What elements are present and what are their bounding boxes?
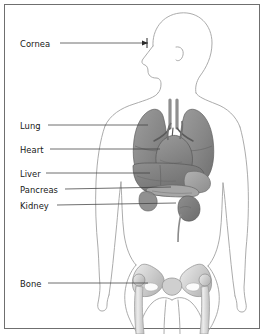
organ-kidney xyxy=(178,196,200,242)
label-heart: Heart xyxy=(20,145,44,155)
label-pancreas: Pancreas xyxy=(20,185,58,195)
leader-arrowheads xyxy=(142,38,148,48)
label-cornea: Cornea xyxy=(20,39,50,49)
femur-left-bone xyxy=(135,286,145,334)
label-kidney: Kidney xyxy=(20,201,49,211)
organ-kidney-secondary xyxy=(139,191,157,211)
organ-ureter xyxy=(178,214,181,242)
leader-line-kidney xyxy=(57,203,176,205)
label-liver: Liver xyxy=(20,169,41,179)
label-bone: Bone xyxy=(20,279,42,289)
organ-pelvis-bone xyxy=(132,264,211,334)
femur-right-bone xyxy=(200,286,210,334)
label-lung: Lung xyxy=(20,121,41,131)
anatomy-figure: CorneaLungHeartLiverPancreasKidneyBone xyxy=(0,0,265,334)
